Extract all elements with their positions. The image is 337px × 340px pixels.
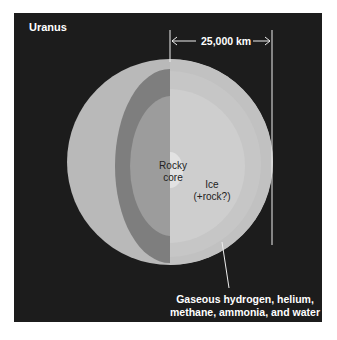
ice-line1: Ice — [188, 179, 236, 191]
ice-label: Ice (+rock?) — [188, 179, 236, 203]
diagram-title: Uranus — [29, 21, 67, 33]
gas-layer-label: Gaseous hydrogen, helium, methane, ammon… — [160, 293, 330, 319]
gas-pointer-line — [222, 242, 229, 288]
rocky-core-line2: core — [158, 172, 188, 184]
gas-line2: methane, ammonia, and water — [160, 306, 330, 319]
rocky-core-line1: Rocky — [158, 160, 188, 172]
diameter-label: 25,000 km — [199, 35, 253, 47]
rocky-core-label: Rocky core — [158, 160, 188, 184]
gas-line1: Gaseous hydrogen, helium, — [160, 293, 330, 306]
ice-line2: (+rock?) — [188, 191, 236, 203]
